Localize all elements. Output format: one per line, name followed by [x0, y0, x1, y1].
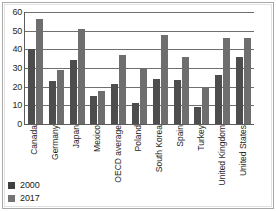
- x-tick-label: OECD average: [113, 125, 122, 183]
- x-tick-cell: South Korea: [149, 125, 170, 187]
- bar: [202, 87, 209, 124]
- x-tick-label: Mexico: [93, 125, 102, 152]
- bar-group: [46, 12, 67, 124]
- legend-swatch-icon: [8, 182, 15, 189]
- x-tick-cell: United Kingdom: [211, 125, 232, 187]
- bar: [57, 70, 64, 124]
- bar: [90, 96, 97, 124]
- bar: [36, 19, 43, 124]
- x-tick-cell: Mexico: [86, 125, 107, 187]
- bar: [153, 79, 160, 124]
- x-tick-label: United States: [238, 125, 247, 176]
- bar: [236, 57, 243, 124]
- y-tick-label: 40: [12, 45, 22, 54]
- bar: [174, 80, 181, 124]
- bar: [49, 81, 56, 124]
- bar: [215, 75, 222, 124]
- x-axis-tick-labels: CanadaGermanyJapanMexicoOECD averagePola…: [24, 125, 253, 187]
- bar-group: [150, 12, 171, 124]
- y-tick-label: 0: [17, 120, 22, 129]
- bar: [244, 38, 251, 124]
- x-tick-cell: Spain: [170, 125, 191, 187]
- bar-group: [171, 12, 192, 124]
- bar: [28, 49, 35, 124]
- y-tick-label: 20: [12, 82, 22, 91]
- bar-group: [67, 12, 88, 124]
- plot-area: 6050403020100: [24, 12, 254, 125]
- bar-group: [192, 12, 213, 124]
- x-tick-cell: Germany: [45, 125, 66, 187]
- legend-item: 2000: [8, 180, 40, 191]
- y-tick-label: 10: [12, 101, 22, 110]
- y-tick-label: 60: [12, 8, 22, 17]
- bar: [132, 103, 139, 124]
- x-tick-cell: Turkey: [191, 125, 212, 187]
- bar-group: [108, 12, 129, 124]
- x-tick-cell: Canada: [24, 125, 45, 187]
- legend-label: 2017: [20, 194, 40, 203]
- x-tick-label: United Kingdom: [217, 125, 226, 185]
- bar: [111, 84, 118, 124]
- chart-legend: 20002017: [8, 180, 40, 206]
- x-tick-label: South Korea: [155, 125, 164, 172]
- bar: [78, 29, 85, 124]
- bar-chart: 6050403020100 CanadaGermanyJapanMexicoOE…: [0, 0, 276, 211]
- x-tick-label: Germany: [51, 125, 60, 160]
- chart-screenshot: 6050403020100 CanadaGermanyJapanMexicoOE…: [0, 0, 276, 211]
- bar: [161, 35, 168, 124]
- bar: [140, 68, 147, 124]
- bar: [119, 55, 126, 124]
- bar-group: [87, 12, 108, 124]
- bar: [98, 91, 105, 124]
- bar: [223, 38, 230, 124]
- legend-swatch-icon: [8, 195, 15, 202]
- legend-label: 2000: [20, 181, 40, 190]
- x-tick-cell: OECD average: [107, 125, 128, 187]
- x-tick-cell: Japan: [66, 125, 87, 187]
- x-tick-label: Japan: [72, 125, 81, 148]
- x-tick-label: Turkey: [197, 125, 206, 151]
- bar-group: [212, 12, 233, 124]
- y-tick-label: 30: [12, 64, 22, 73]
- bar-group: [233, 12, 254, 124]
- x-tick-label: Spain: [176, 125, 185, 147]
- x-tick-cell: Poland: [128, 125, 149, 187]
- bar: [194, 107, 201, 124]
- x-tick-label: Poland: [134, 125, 143, 151]
- bar-group: [25, 12, 46, 124]
- bar: [70, 60, 77, 124]
- legend-item: 2017: [8, 193, 40, 204]
- x-tick-label: Canada: [30, 125, 39, 155]
- bar: [182, 57, 189, 124]
- y-tick-label: 50: [12, 26, 22, 35]
- x-tick-cell: United States: [232, 125, 253, 187]
- bar-group: [129, 12, 150, 124]
- bar-groups: [25, 12, 254, 124]
